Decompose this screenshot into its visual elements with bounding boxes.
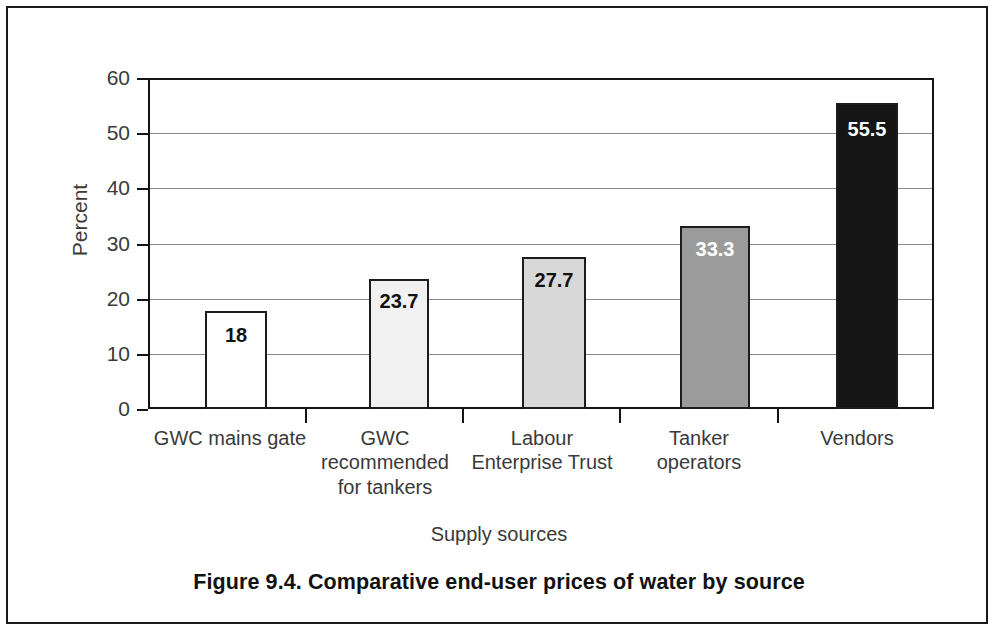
figure-frame: Percent 60 50 40 30 20 10 0 <box>6 6 988 624</box>
y-tick-mark-40 <box>137 188 148 190</box>
y-tick-mark-50 <box>137 133 148 135</box>
gridline-50 <box>150 133 932 134</box>
cat2-line1: GWC <box>305 426 465 450</box>
x-category-label-tanker-operators: Tanker operators <box>619 426 779 475</box>
gridline-30 <box>150 244 932 245</box>
bar-labour-enterprise-trust[interactable]: 27.7 <box>522 257 586 409</box>
cat2-line2: recommended <box>305 450 465 474</box>
x-category-label-labour-enterprise-trust: Labour Enterprise Trust <box>462 426 622 475</box>
x-axis-title: Supply sources <box>8 523 990 546</box>
y-tick-mark-0 <box>137 409 148 411</box>
bar-gwc-recommended-for-tankers[interactable]: 23.7 <box>369 279 429 409</box>
figure-caption: Figure 9.4. Comparative end-user prices … <box>8 570 990 595</box>
bar-value-3: 27.7 <box>524 270 584 290</box>
bar-tanker-operators[interactable]: 33.3 <box>680 226 750 409</box>
y-tick-label-40: 40 <box>88 177 130 198</box>
y-tick-mark-10 <box>137 354 148 356</box>
bar-value-1: 18 <box>207 325 265 345</box>
x-tick-2 <box>462 409 464 423</box>
cat4-line1: Tanker <box>619 426 779 450</box>
y-tick-label-20: 20 <box>88 288 130 309</box>
x-tick-1 <box>305 409 307 423</box>
cat2-line3: for tankers <box>305 475 465 499</box>
y-tick-mark-60 <box>137 78 148 80</box>
bar-value-2: 23.7 <box>371 291 427 311</box>
y-axis-title: Percent <box>68 140 92 300</box>
y-tick-mark-20 <box>137 299 148 301</box>
cat3-line1: Labour <box>462 426 622 450</box>
x-tick-3 <box>619 409 621 423</box>
y-tick-label-60: 60 <box>88 67 130 88</box>
y-tick-label-30: 30 <box>88 233 130 254</box>
x-category-label-gwc-mains-gate: GWC mains gate <box>150 426 310 450</box>
gridline-40 <box>150 188 932 189</box>
x-category-label-gwc-recommended: GWC recommended for tankers <box>305 426 465 499</box>
cat1-line1: GWC mains gate <box>150 426 310 450</box>
x-category-label-vendors: Vendors <box>777 426 937 450</box>
cat5-line1: Vendors <box>777 426 937 450</box>
y-tick-mark-30 <box>137 244 148 246</box>
cat4-line2: operators <box>619 450 779 474</box>
y-tick-label-50: 50 <box>88 122 130 143</box>
bar-value-4: 33.3 <box>682 239 748 259</box>
bar-value-5: 55.5 <box>838 119 896 139</box>
y-tick-label-10: 10 <box>88 343 130 364</box>
x-tick-4 <box>777 409 779 423</box>
bar-gwc-mains-gate[interactable]: 18 <box>205 311 267 409</box>
bar-chart: Percent 60 50 40 30 20 10 0 <box>8 8 990 626</box>
cat3-line2: Enterprise Trust <box>462 450 622 474</box>
y-tick-label-0: 0 <box>88 398 130 419</box>
bar-vendors[interactable]: 55.5 <box>836 103 898 409</box>
plot-area: 18 23.7 27.7 33.3 55.5 <box>148 78 934 409</box>
